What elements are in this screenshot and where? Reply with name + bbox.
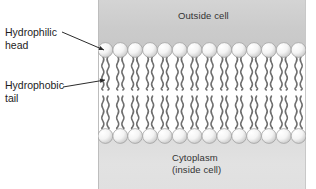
membrane-diagram-root: Outside cell Cytoplasm (inside cell) Hyd… — [0, 0, 316, 189]
hydrophobic-tail-label: Hydrophobic tail — [5, 79, 64, 105]
arrowhead-hydrophobic-tail — [100, 79, 105, 83]
leader-line-hydrophobic-tail — [63, 80, 105, 87]
leader-line-hydrophilic-head — [62, 32, 104, 50]
hydrophilic-head-label: Hydrophilic head — [5, 26, 57, 52]
